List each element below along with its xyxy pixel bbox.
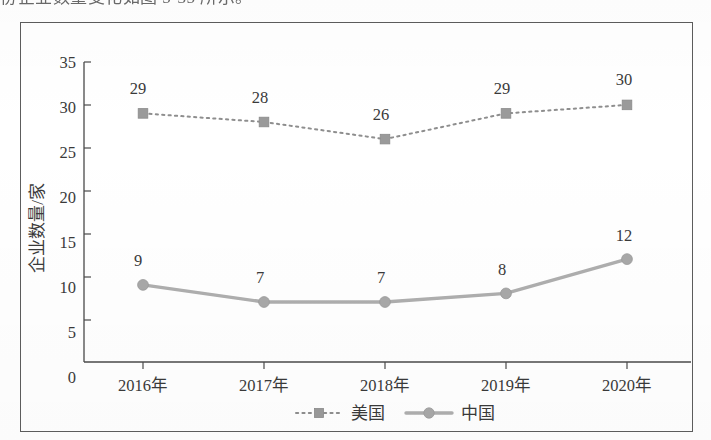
x-category-label-2018: 2018年: [360, 376, 410, 395]
legend-item-cn[interactable]: 中国: [406, 404, 495, 423]
series-cn-data-label-2020: 12: [616, 226, 633, 245]
series-us-data-label-2019: 29: [494, 79, 511, 98]
series-us-data-label-2016: 29: [130, 79, 147, 98]
cut-off-body-text: 份企业数量变化如图 5-35 所示。: [0, 0, 711, 9]
series-cn-marker-2017: [259, 297, 270, 308]
line-chart: 企业数量/家 35 30 25 20 15 10 5 0: [21, 23, 694, 433]
legend-square-marker-icon: [315, 409, 324, 418]
y-tick-label-25: 25: [60, 143, 77, 162]
series-us-data-label-2020: 30: [616, 70, 633, 89]
series-us-marker-2016: [138, 109, 148, 119]
series-cn-data-label-2016: 9: [134, 251, 142, 270]
series-us-marker-2019: [501, 109, 511, 119]
y-tick-label-30: 30: [60, 98, 77, 117]
y-tick-label-20: 20: [60, 188, 77, 207]
y-tick-label-0: 0: [68, 368, 76, 387]
series-cn-data-label-2019: 8: [498, 260, 506, 279]
series-cn-marker-2020: [622, 254, 633, 265]
series-us-data-label-2017: 28: [252, 88, 269, 107]
legend-item-us[interactable]: 美国: [296, 404, 385, 423]
y-tick-label-15: 15: [60, 233, 77, 252]
legend-circle-marker-icon: [424, 408, 434, 418]
legend-label-us: 美国: [351, 404, 385, 423]
series-us-marker-2018: [380, 134, 390, 144]
series-cn-marker-2016: [138, 280, 149, 291]
legend-label-cn: 中国: [461, 404, 495, 423]
chart-svg: 企业数量/家 35 30 25 20 15 10 5 0: [21, 23, 694, 433]
y-tick-label-35: 35: [60, 53, 77, 72]
series-cn-marker-2018: [380, 297, 391, 308]
series-us-marker-2020: [622, 100, 632, 110]
y-tick-label-5: 5: [68, 323, 76, 342]
x-category-label-2016: 2016年: [118, 376, 168, 395]
series-us-marker-2017: [259, 117, 269, 127]
y-tick-label-10: 10: [60, 278, 77, 297]
y-axis-title: 企业数量/家: [28, 183, 47, 273]
series-cn-data-label-2018: 7: [377, 268, 385, 287]
series-us-data-label-2018: 26: [373, 105, 390, 124]
x-category-label-2017: 2017年: [239, 376, 289, 395]
series-cn-marker-2019: [501, 288, 512, 299]
x-category-label-2019: 2019年: [481, 376, 531, 395]
figure-frame: 企业数量/家 35 30 25 20 15 10 5 0: [20, 22, 693, 432]
series-cn-data-label-2017: 7: [256, 268, 264, 287]
chart-legend: 美国 中国: [296, 404, 495, 423]
x-category-label-2020: 2020年: [602, 376, 652, 395]
series-us: 29 28 26 29 30: [130, 70, 633, 144]
series-cn: 9 7 7 8 12: [134, 226, 633, 307]
